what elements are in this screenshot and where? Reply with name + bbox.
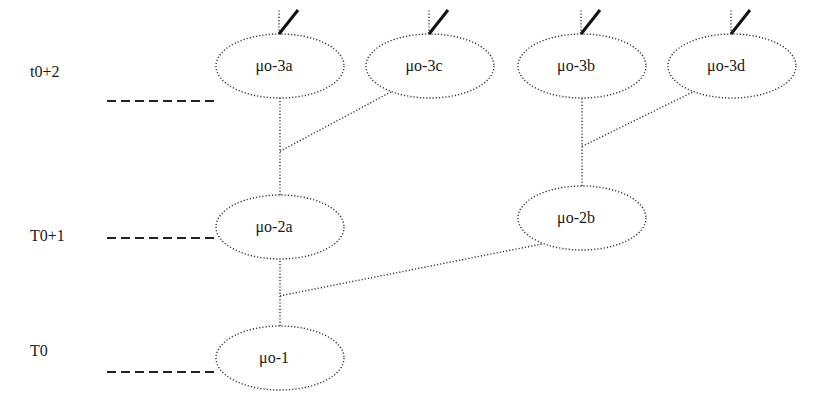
check-mark-icon bbox=[279, 10, 298, 34]
check-mark-icon bbox=[731, 10, 750, 34]
diagram-canvas: t0+2T0+1T0μo-3aμo-3cμo-3bμo-3dμo-2aμo-2b… bbox=[0, 0, 833, 417]
node-label: μo-1 bbox=[259, 349, 289, 367]
node-n1[interactable]: μo-1 bbox=[216, 326, 344, 390]
time-level-label: t0+2 bbox=[30, 63, 59, 80]
time-level-label: T0 bbox=[30, 342, 48, 359]
node-n2a[interactable]: μo-2a bbox=[216, 195, 344, 259]
check-mark-icon bbox=[581, 10, 600, 34]
node-label: μo-3d bbox=[707, 57, 745, 75]
node-label: μo-3c bbox=[405, 57, 442, 75]
edge-n2a-n3c bbox=[280, 92, 392, 152]
node-n3c[interactable]: μo-3c bbox=[366, 10, 494, 98]
edge-n2b-n3d bbox=[582, 92, 694, 147]
node-label: μo-3a bbox=[255, 57, 292, 75]
tree-diagram: t0+2T0+1T0μo-3aμo-3cμo-3bμo-3dμo-2aμo-2b… bbox=[0, 0, 833, 417]
node-n3d[interactable]: μo-3d bbox=[668, 10, 796, 98]
node-n2b[interactable]: μo-2b bbox=[518, 186, 646, 250]
node-n3b[interactable]: μo-3b bbox=[518, 10, 646, 98]
node-label: μo-2b bbox=[557, 209, 595, 227]
time-level-label: T0+1 bbox=[30, 227, 65, 244]
node-label: μo-3b bbox=[557, 57, 595, 75]
check-mark-icon bbox=[429, 10, 448, 34]
node-label: μo-2a bbox=[255, 218, 292, 236]
node-n3a[interactable]: μo-3a bbox=[216, 10, 344, 98]
